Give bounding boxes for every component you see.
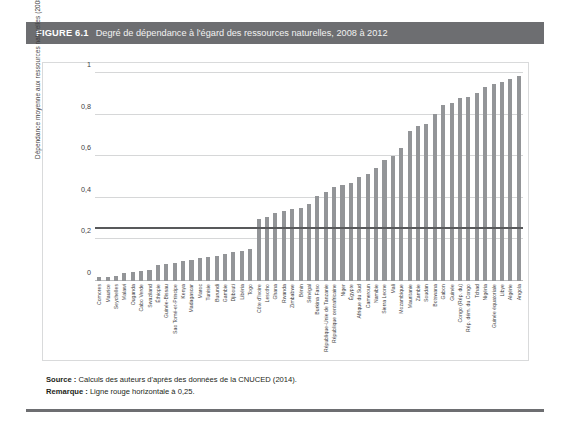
y-axis-tick-label: 0,4 <box>81 184 91 193</box>
bar-slot <box>515 73 523 281</box>
chart-bar <box>517 76 521 281</box>
x-axis-tick-label: Botswana <box>432 284 438 307</box>
source-line: Source : Calculs des auteurs d'après des… <box>46 375 526 384</box>
chart-bar <box>189 260 193 281</box>
bar-slot <box>389 73 397 281</box>
x-axis-tick-label: Swaziland <box>147 284 153 308</box>
bar-slot <box>103 73 111 281</box>
bar-slot <box>179 73 187 281</box>
x-label-slot: Burundi <box>212 282 220 362</box>
chart-bar <box>475 93 479 281</box>
x-axis-tick-label: Gambie <box>222 284 228 302</box>
note-text: Ligne rouge horizontale à 0,25. <box>88 387 195 396</box>
x-label-slot: Niger <box>338 282 346 362</box>
bar-slot <box>355 73 363 281</box>
footer-rule <box>26 409 544 412</box>
bar-slot <box>380 73 388 281</box>
bar-slot <box>473 73 481 281</box>
x-label-slot: Madagascar <box>187 282 195 362</box>
x-axis-tick-label: Zimbabwe <box>289 284 295 308</box>
x-label-slot: Zambie <box>414 282 422 362</box>
x-axis-tick-label: Mali <box>390 284 396 294</box>
figure-number: FIGURE 6.1 <box>36 28 89 38</box>
chart-bar <box>299 208 303 281</box>
bar-slot <box>372 73 380 281</box>
x-label-slot: Congo (Rép. du) <box>456 282 464 362</box>
chart-bar <box>131 272 135 281</box>
bar-slot <box>212 73 220 281</box>
x-axis-tick-label: Guinée équatoriale <box>491 284 497 328</box>
x-label-slot: Djibouti <box>229 282 237 362</box>
x-label-slot: Namibie <box>372 282 380 362</box>
x-label-slot: Gabon <box>439 282 447 362</box>
x-label-slot: Cabo Verde <box>137 282 145 362</box>
x-label-slot: Zimbabwe <box>288 282 296 362</box>
x-axis-tick-label: Tchad <box>474 284 480 298</box>
chart-bar <box>382 160 386 281</box>
x-label-slot: Ghana <box>271 282 279 362</box>
x-label-slot: Guinée-Bissau <box>162 282 170 362</box>
x-axis-tick-label: Guinée <box>449 284 455 301</box>
chart-bar <box>433 114 437 281</box>
x-axis-tick-label: Libéria <box>239 284 245 300</box>
chart-bar <box>349 183 353 281</box>
figure-title-bar: FIGURE 6.1 Degré de dépendance à l'égard… <box>26 22 544 44</box>
x-axis-tick-label: Nigéria <box>482 284 488 301</box>
x-axis-tick-label: Mozambique <box>398 284 404 314</box>
reference-line-025 <box>95 227 523 229</box>
bar-slot <box>196 73 204 281</box>
y-axis-tick-label: 0 <box>87 268 91 277</box>
chart-bar <box>399 148 403 281</box>
chart-bar <box>466 97 470 281</box>
x-label-slot: Guinée <box>447 282 455 362</box>
x-label-slot: Bénin <box>296 282 304 362</box>
chart-bar <box>240 251 244 281</box>
figure-container: FIGURE 6.1 Degré de dépendance à l'égard… <box>0 0 570 431</box>
figure-title: Degré de dépendance à l'égard des ressou… <box>96 28 388 38</box>
bar-slot <box>145 73 153 281</box>
chart-bars <box>95 73 523 281</box>
bar-slot <box>271 73 279 281</box>
bar-slot <box>129 73 137 281</box>
bar-slot <box>422 73 430 281</box>
bar-slot <box>481 73 489 281</box>
chart-bar <box>206 257 210 281</box>
bar-slot <box>322 73 330 281</box>
x-label-slot: Égypte <box>347 282 355 362</box>
x-axis-tick-label: Sao Tomé-et-Principe <box>172 284 178 334</box>
figure-footer: Source : Calculs des auteurs d'après des… <box>46 375 526 400</box>
x-label-slot: Seychelles <box>112 282 120 362</box>
bar-slot <box>489 73 497 281</box>
x-axis-tick-label: Mauritanie <box>407 284 413 308</box>
x-label-slot: Sénégal <box>305 282 313 362</box>
bar-slot <box>338 73 346 281</box>
chart-bar <box>416 126 420 281</box>
x-axis-tick-label: République centrafricaine <box>331 284 337 343</box>
bar-slot <box>506 73 514 281</box>
bar-slot <box>313 73 321 281</box>
x-label-slot: Algérie <box>506 282 514 362</box>
x-axis-tick-label: Bénin <box>298 284 304 297</box>
x-label-slot: Afrique du Sud <box>355 282 363 362</box>
bar-slot <box>221 73 229 281</box>
x-axis-tick-label: Seychelles <box>113 284 119 309</box>
chart-bar <box>391 156 395 281</box>
x-axis-tick-label: Guinée-Bissau <box>163 284 169 318</box>
bar-slot <box>187 73 195 281</box>
bar-slot <box>414 73 422 281</box>
x-label-slot: Comores <box>95 282 103 362</box>
x-axis-tick-label: Maroc <box>197 284 203 298</box>
bar-slot <box>288 73 296 281</box>
x-axis-tick-label: Ghana <box>272 284 278 300</box>
chart-bar <box>408 131 412 281</box>
x-label-slot: Éthiopie <box>154 282 162 362</box>
chart-bar <box>483 87 487 281</box>
chart-bar <box>97 277 101 281</box>
x-label-slot: Togo <box>246 282 254 362</box>
bar-slot <box>364 73 372 281</box>
x-label-slot: Maurice <box>103 282 111 362</box>
chart-bar <box>500 82 504 281</box>
x-axis-tick-label: Afrique du Sud <box>356 284 362 318</box>
chart-plot-area: 00,20,40,60,81 <box>95 73 523 281</box>
chart-bar <box>139 271 143 281</box>
